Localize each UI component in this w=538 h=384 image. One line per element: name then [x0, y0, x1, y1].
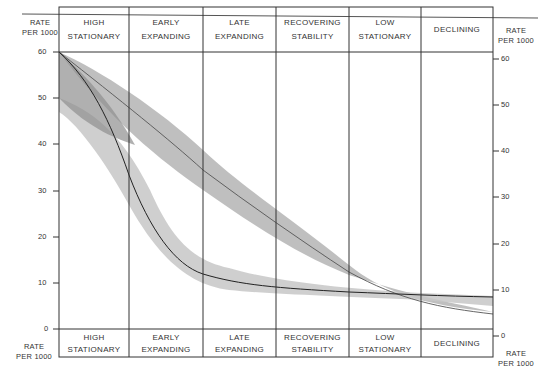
left-axis-label-bottom: RATE PER 1000: [14, 342, 54, 362]
right-tick-30: 30: [501, 192, 509, 201]
stage-header-high-stationary: HIGH STATIONARY: [59, 8, 129, 52]
right-tick-0: 0: [501, 331, 505, 340]
axis-label-line: RATE: [20, 18, 60, 28]
stage-label-line1: HIGH: [83, 16, 104, 30]
right-axis-label-top: RATE PER 1000: [494, 26, 538, 46]
stage-header-recovering-stability: RECOVERING STABILITY: [276, 8, 349, 52]
stage-label-line2: STATIONARY: [68, 30, 121, 44]
stage-header-low-stationary: LOW STATIONARY: [349, 8, 421, 52]
left-tick-60: 60: [38, 47, 46, 56]
axis-label-line: RATE: [14, 342, 54, 352]
right-tick-50: 50: [501, 100, 509, 109]
left-axis-label-top: RATE PER 1000: [20, 18, 60, 38]
stage-header-declining: DECLINING: [421, 8, 493, 52]
stage-label-line2: EXPANDING: [215, 30, 264, 44]
axis-label-line: PER 1000: [14, 352, 54, 362]
right-tick-10: 10: [501, 285, 509, 294]
axis-label-line: PER 1000: [494, 359, 538, 369]
stage-footer-declining: DECLINING: [421, 330, 493, 357]
stage-label-line2: STATIONARY: [68, 344, 121, 356]
stage-label-line1: RECOVERING: [284, 332, 341, 344]
stage-footer-recovering-stability: RECOVERING STABILITY: [276, 330, 349, 357]
stage-label-line2: STABILITY: [291, 30, 333, 44]
stage-label-line2: EXPANDING: [141, 30, 190, 44]
stage-header-late-expanding: LATE EXPANDING: [203, 8, 276, 52]
stage-label-line1: LATE: [229, 16, 250, 30]
axis-label-line: RATE: [494, 26, 538, 36]
right-tick-60: 60: [501, 54, 509, 63]
axis-label-line: PER 1000: [20, 28, 60, 38]
stage-label-line1: RECOVERING: [284, 16, 341, 30]
left-tick-10: 10: [38, 278, 46, 287]
stage-label-line2: DECLINING: [434, 23, 480, 37]
stage-label-line1: EARLY: [152, 332, 179, 344]
left-ticks: [53, 52, 59, 329]
right-axis-label-bottom: RATE PER 1000: [494, 349, 538, 369]
left-tick-50: 50: [38, 93, 46, 102]
stage-footer-high-stationary: HIGH STATIONARY: [59, 330, 129, 357]
right-tick-20: 20: [501, 239, 509, 248]
stage-label-line2: DECLINING: [434, 338, 480, 350]
right-ticks: [493, 59, 499, 336]
stage-label-line1: LATE: [229, 332, 250, 344]
stage-label-line1: LOW: [375, 332, 394, 344]
stage-footer-late-expanding: LATE EXPANDING: [203, 330, 276, 357]
stage-footer-early-expanding: EARLY EXPANDING: [129, 330, 203, 357]
left-tick-40: 40: [38, 139, 46, 148]
stage-header-early-expanding: EARLY EXPANDING: [129, 8, 203, 52]
stage-label-line2: STABILITY: [291, 344, 333, 356]
left-tick-30: 30: [38, 186, 46, 195]
left-tick-0: 0: [44, 324, 48, 333]
stage-dividers: [129, 7, 421, 357]
axis-label-line: PER 1000: [494, 36, 538, 46]
stage-label-line1: EARLY: [152, 16, 179, 30]
axis-label-line: RATE: [494, 349, 538, 359]
chart-canvas: [0, 0, 538, 384]
stage-label-line2: STATIONARY: [359, 30, 412, 44]
stage-label-line2: STATIONARY: [359, 344, 412, 356]
stage-label-line2: EXPANDING: [215, 344, 264, 356]
stage-footer-low-stationary: LOW STATIONARY: [349, 330, 421, 357]
left-tick-20: 20: [38, 232, 46, 241]
right-tick-40: 40: [501, 146, 509, 155]
stage-label-line2: EXPANDING: [141, 344, 190, 356]
stage-label-line1: LOW: [375, 16, 394, 30]
stage-label-line1: HIGH: [83, 332, 104, 344]
